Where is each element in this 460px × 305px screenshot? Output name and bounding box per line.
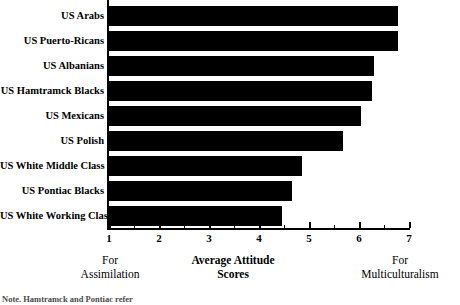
x-tick-minor-2: [234, 225, 235, 228]
x-tick-minor-0: [134, 225, 135, 228]
right-anchor-line2: Multiculturalism: [340, 267, 460, 281]
y-axis-label-1: US Puerto-Ricans: [0, 31, 104, 51]
bar-2: [109, 56, 374, 76]
bar-6: [109, 156, 302, 176]
left-anchor-line1: For: [64, 253, 156, 267]
x-axis-tick-labels: 1 2 3 4 5 6 7: [0, 232, 460, 248]
x-axis-title-line1: Average Attitude: [159, 253, 307, 267]
x-tick-label-4: 5: [297, 232, 321, 244]
x-tick-label-0: 1: [97, 232, 121, 244]
x-tick-label-2: 3: [197, 232, 221, 244]
bar-8: [109, 206, 282, 226]
x-tick-label-1: 2: [147, 232, 171, 244]
x-axis-line: [107, 228, 410, 230]
chart-figure: US Arabs US Puerto-Ricans US Albanians U…: [0, 0, 460, 305]
y-axis-label-8: US White Working Class: [0, 206, 104, 226]
y-axis-category-labels: US Arabs US Puerto-Ricans US Albanians U…: [0, 6, 104, 225]
y-axis-line: [107, 0, 109, 228]
bar-0: [109, 6, 398, 26]
right-anchor-line1: For: [340, 253, 460, 267]
x-tick-minor-5: [384, 225, 385, 228]
y-axis-label-4: US Mexicans: [0, 106, 104, 126]
y-axis-label-0: US Arabs: [0, 6, 104, 26]
figure-note: Note. Hamtramck and Pontiac refer: [2, 294, 302, 305]
x-tick-label-3: 4: [247, 232, 271, 244]
y-axis-label-3: US Hamtramck Blacks: [0, 81, 104, 101]
bar-1: [109, 31, 398, 51]
x-tick-major-1: [159, 222, 161, 228]
x-tick-major-0: [109, 222, 111, 228]
bar-3: [109, 81, 372, 101]
left-anchor-caption: For Assimilation: [64, 253, 156, 281]
x-tick-major-4: [309, 222, 311, 228]
bar-4: [109, 106, 361, 126]
y-axis-label-6: US White Middle Class: [0, 156, 104, 176]
x-tick-label-6: 7: [397, 232, 421, 244]
right-anchor-caption: For Multiculturalism: [340, 253, 460, 281]
x-tick-minor-3: [284, 225, 285, 228]
left-anchor-line2: Assimilation: [64, 267, 156, 281]
y-axis-label-5: US Polish: [0, 131, 104, 151]
bar-7: [109, 181, 292, 201]
y-axis-label-2: US Albanians: [0, 56, 104, 76]
x-tick-major-3: [259, 222, 261, 228]
x-axis-title-line2: Scores: [159, 267, 307, 281]
x-tick-minor-4: [334, 225, 335, 228]
y-axis-label-7: US Pontiac Blacks: [0, 181, 104, 201]
x-tick-major-6: [409, 222, 411, 228]
x-tick-major-2: [209, 222, 211, 228]
plot-area: [109, 0, 460, 228]
x-tick-major-5: [359, 222, 361, 228]
x-tick-minor-1: [184, 225, 185, 228]
x-axis-title: Average Attitude Scores: [159, 253, 307, 281]
bar-5: [109, 131, 343, 151]
x-tick-label-5: 6: [347, 232, 371, 244]
